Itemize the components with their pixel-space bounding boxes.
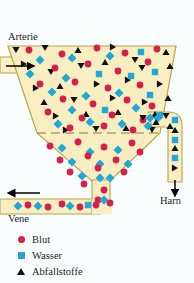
particle-blood: [124, 97, 131, 104]
particle-blood: [85, 153, 92, 160]
particle-blood: [45, 204, 52, 211]
legend-item-blut: Blut: [14, 231, 164, 247]
particle-blood: [101, 187, 108, 194]
legend-label-abfallstoffe: Abfallstoffe: [32, 266, 83, 277]
particle-blood: [109, 112, 116, 119]
particle-blood: [77, 204, 84, 211]
particle-blood: [45, 109, 52, 116]
legend: Blut Wasser Abfallstoffe: [14, 231, 164, 279]
particle-blood: [57, 157, 64, 164]
particle-water: [172, 137, 178, 143]
particle-blood: [105, 85, 112, 92]
particle-water: [157, 112, 163, 118]
particle-blood: [122, 50, 129, 57]
particle-blood: [26, 47, 33, 54]
particle-blood: [75, 139, 82, 146]
particle-blood: [60, 96, 67, 103]
particle-blood: [130, 127, 137, 134]
particle-water: [138, 49, 144, 55]
particle-blood: [101, 144, 108, 151]
particle-blood: [94, 45, 101, 52]
particle-blood: [129, 140, 136, 147]
label-harn: Harn: [160, 196, 181, 207]
particle-blood: [121, 169, 128, 176]
particle-blood: [85, 61, 92, 68]
particle-blood: [101, 123, 108, 130]
diagram-canvas: Arterie Vene Harn Blut Wasser Abfallstof…: [0, 0, 194, 283]
particle-water: [147, 92, 153, 98]
particle-blood: [79, 115, 86, 122]
particle-water: [96, 71, 102, 77]
particle-blood: [95, 165, 102, 172]
particle-blood: [67, 125, 74, 132]
particle-blood: [37, 81, 44, 88]
particle-water: [172, 117, 178, 123]
particle-blood: [59, 201, 66, 208]
legend-item-wasser: Wasser: [14, 247, 164, 263]
label-arterie: Arterie: [8, 32, 38, 43]
particle-blood: [25, 202, 32, 209]
particle-blood: [59, 51, 66, 58]
particle-water: [152, 69, 158, 75]
particle-blood: [145, 59, 152, 66]
particle-water: [128, 73, 134, 79]
circle-icon: [14, 232, 28, 246]
particle-blood: [154, 46, 161, 53]
square-icon: [14, 248, 28, 262]
label-vene: Vene: [8, 214, 29, 225]
particle-blood: [67, 169, 74, 176]
particle-blood: [52, 65, 59, 72]
legend-label-blut: Blut: [32, 234, 50, 245]
legend-label-wasser: Wasser: [32, 250, 62, 261]
particle-water: [85, 202, 91, 208]
triangle-icon: [14, 264, 28, 278]
particle-blood: [113, 157, 120, 164]
particle-blood: [137, 82, 144, 89]
particle-blood: [149, 103, 156, 110]
particle-blood: [93, 202, 100, 209]
legend-item-abfallstoffe: Abfallstoffe: [14, 263, 164, 279]
particle-blood: [115, 68, 122, 75]
particle-blood: [90, 101, 97, 108]
particle-blood: [47, 143, 54, 150]
particle-blood: [107, 200, 114, 207]
particle-blood: [72, 79, 79, 86]
particle-blood: [137, 149, 144, 156]
particle-water: [172, 155, 178, 161]
particle-blood: [81, 181, 88, 188]
particle-water: [102, 107, 108, 113]
